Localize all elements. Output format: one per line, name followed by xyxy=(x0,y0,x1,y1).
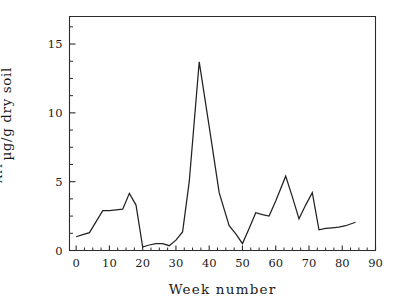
line-chart: 0102030405060708090051015 Week number xyxy=(0,0,418,303)
x-tick-label: 40 xyxy=(202,256,217,270)
x-axis-title: Week number xyxy=(169,281,277,297)
x-tick-label: 70 xyxy=(302,256,317,270)
axis-tick-labels: 0102030405060708090051015 xyxy=(48,37,383,269)
y-tick-label: 15 xyxy=(48,37,63,51)
y-tick-label: 0 xyxy=(55,244,62,258)
data-series-atp xyxy=(76,62,355,247)
x-tick-label: 60 xyxy=(268,256,283,270)
x-tick-label: 30 xyxy=(169,256,184,270)
chart-figure: 0102030405060708090051015 Week number AT… xyxy=(0,0,418,303)
y-tick-label: 10 xyxy=(48,106,63,120)
axis-ticks xyxy=(70,27,376,251)
plot-frame xyxy=(70,17,376,251)
x-tick-label: 50 xyxy=(235,256,250,270)
x-tick-label: 90 xyxy=(368,256,383,270)
x-tick-label: 10 xyxy=(102,256,117,270)
y-tick-label: 5 xyxy=(55,175,62,189)
x-tick-label: 20 xyxy=(135,256,150,270)
x-tick-label: 80 xyxy=(335,256,350,270)
x-tick-label: 0 xyxy=(72,256,79,270)
